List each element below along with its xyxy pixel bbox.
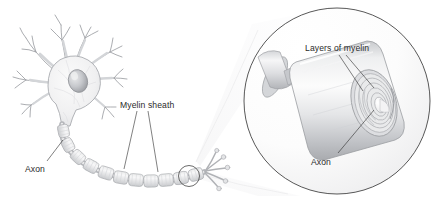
myelin-segments [57,124,204,188]
leader-axon-left [47,140,63,161]
neuron-illustration: Axon Myelin sheath Layers of myelin Axon [0,0,437,207]
label-myelin-sheath: Myelin sheath [120,100,174,110]
leader-myelin-sheath-a [124,111,137,169]
leader-myelin-sheath-b [148,111,158,172]
neuron-diagram: Axon Myelin sheath Layers of myelin Axon [0,0,437,207]
cell-body [48,56,100,126]
label-axon-left: Axon [25,164,45,174]
label-axon-inset: Axon [311,157,331,167]
label-layers-of-myelin: Layers of myelin [305,43,369,53]
